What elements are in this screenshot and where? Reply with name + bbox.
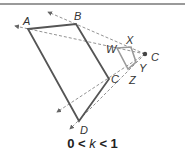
label-w: W [106, 43, 118, 55]
large-quadrilateral [28, 24, 109, 121]
caption-op1: < [78, 136, 86, 151]
label-d: D [80, 124, 88, 136]
diagram-canvas: A B C D W X Y Z C [0, 0, 185, 157]
center-point [143, 52, 147, 56]
label-a: A [22, 15, 30, 27]
caption-right: 1 [111, 136, 118, 151]
dilation-diagram: A B C D W X Y Z C 0 < k < 1 [0, 0, 185, 157]
label-c-prime: C [111, 73, 119, 85]
caption-op2: < [99, 136, 107, 151]
label-center: C [151, 51, 159, 63]
scale-factor-caption: 0 < k < 1 [0, 136, 185, 151]
label-b: B [74, 10, 81, 22]
label-x: X [125, 34, 134, 46]
caption-var: k [89, 136, 96, 151]
caption-left: 0 [67, 136, 74, 151]
label-y: Y [139, 62, 147, 74]
label-z: Z [128, 74, 137, 86]
